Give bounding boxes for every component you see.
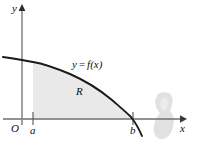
curve-label-equals: = — [77, 58, 87, 70]
y-axis-arrowhead — [19, 4, 26, 11]
tick-label-b: b — [130, 125, 136, 136]
y-axis-label: y — [12, 3, 17, 14]
curve-label-argument: (x) — [90, 58, 102, 70]
math-figure-area-under-curve: y O a b x R y=f(x) — [0, 0, 201, 146]
tick-label-a: a — [30, 125, 36, 136]
shaded-region-R — [33, 62, 136, 119]
x-axis-label: x — [180, 123, 185, 134]
origin-label: O — [11, 123, 19, 134]
curve-equation-label: y=f(x) — [72, 59, 102, 70]
scan-artifact-blob — [154, 92, 174, 139]
region-label-R: R — [76, 86, 83, 97]
